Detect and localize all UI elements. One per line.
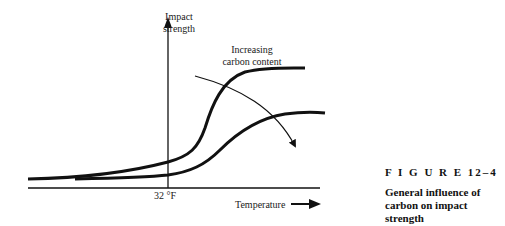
annotation-line2: carbon content bbox=[202, 56, 302, 68]
y-axis-label-line2: strength bbox=[153, 23, 205, 35]
temperature-arrowhead-icon bbox=[309, 199, 321, 209]
y-axis-label-line1: Impact bbox=[153, 11, 205, 23]
figure-caption: General influence of carbon on impact st… bbox=[385, 186, 505, 225]
x-tick-label: 32 °F bbox=[154, 190, 176, 202]
y-axis-label: Impact strength bbox=[153, 11, 205, 35]
annotation-line1: Increasing bbox=[202, 44, 302, 56]
carbon-annotation: Increasing carbon content bbox=[202, 44, 302, 68]
figure-number: F I G U R E 12–4 bbox=[385, 166, 498, 178]
curve-high-carbon bbox=[75, 112, 325, 179]
curve-low-carbon bbox=[28, 68, 305, 179]
x-axis-label: Temperature bbox=[235, 199, 285, 211]
